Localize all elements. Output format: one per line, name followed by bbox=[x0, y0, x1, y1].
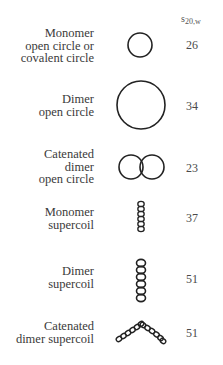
single-circle-large-icon bbox=[117, 81, 165, 129]
short-supercoil-icon bbox=[138, 201, 144, 231]
catenated-supercoil-icon bbox=[115, 320, 167, 344]
long-supercoil-icon bbox=[137, 259, 146, 301]
single-circle-small-icon bbox=[128, 33, 152, 57]
interlocked-circles-icon bbox=[119, 155, 164, 179]
